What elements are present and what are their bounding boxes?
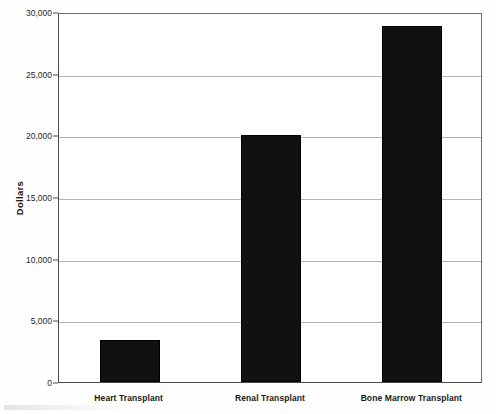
bar (241, 135, 301, 382)
bar (382, 26, 442, 382)
plot-area (58, 13, 482, 383)
bar-chart: Dollars 05,00010,00015,00020,00025,00030… (0, 0, 496, 414)
x-tick-label: Renal Transplant (235, 393, 305, 403)
bar (100, 340, 160, 382)
y-tick-label: 15,000 (0, 193, 52, 203)
y-tick-label: 10,000 (0, 255, 52, 265)
y-tick-label: 30,000 (0, 8, 52, 18)
y-tick-label: 25,000 (0, 70, 52, 80)
y-tick-label: 20,000 (0, 131, 52, 141)
x-tick-label: Bone Marrow Transplant (361, 393, 462, 403)
y-axis-ticks: 05,00010,00015,00020,00025,00030,000 (0, 0, 58, 414)
y-tick-label: 0 (0, 378, 52, 388)
y-tick-label: 5,000 (0, 316, 52, 326)
x-tick-label: Heart Transplant (94, 393, 163, 403)
